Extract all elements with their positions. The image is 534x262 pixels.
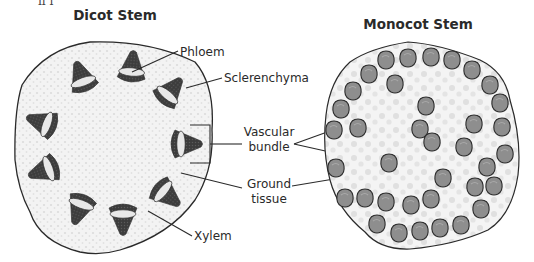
monocot-cross-section [325, 42, 519, 249]
dicot-stem: Dicot Stem [15, 7, 213, 254]
ground-label-line1: Ground [247, 177, 291, 191]
ground-label-line2: tissue [251, 192, 287, 206]
stem-comparison-diagram: ıı ı Dicot Stem Phloem Sclerenchyma Xyle… [0, 0, 534, 262]
monocot-stem: Monocot Stem [325, 16, 519, 249]
sclerenchyma-label: Sclerenchyma [224, 71, 309, 85]
phloem-label: Phloem [180, 45, 225, 59]
vascular-label-line1: Vascular [244, 125, 295, 139]
monocot-title: Monocot Stem [363, 16, 472, 32]
cropped-caption-text: ıı ı [38, 0, 53, 8]
xylem-label: Xylem [194, 229, 232, 243]
dicot-title: Dicot Stem [73, 7, 157, 23]
vascular-label-line2: bundle [248, 140, 289, 154]
